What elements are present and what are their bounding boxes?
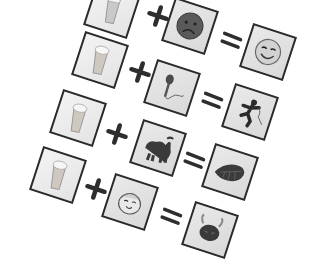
beer-glass-icon <box>38 155 78 195</box>
black-cat-icon <box>138 128 178 168</box>
equals-sign-row1 <box>217 25 247 55</box>
equals-sign-row4 <box>157 201 187 231</box>
beer-glass-icon <box>80 40 120 80</box>
card-beer-row3 <box>49 89 107 147</box>
card-bull-head <box>181 201 239 259</box>
card-happy-wink-face <box>239 23 297 81</box>
card-beer-row2 <box>71 31 129 89</box>
equals-icon <box>157 201 187 231</box>
running-man-icon <box>230 92 270 132</box>
plus-sign-row3 <box>102 119 132 149</box>
plus-icon <box>102 119 132 149</box>
sad-face-icon <box>170 6 210 46</box>
card-beer-row4 <box>29 146 87 204</box>
card-black-cat <box>129 119 187 177</box>
equals-icon <box>198 85 228 115</box>
happy-wink-face-icon <box>248 32 288 72</box>
beer-glass-icon <box>92 0 132 30</box>
bull-head-icon <box>190 210 230 250</box>
card-running-man <box>221 83 279 141</box>
equals-sign-row2 <box>198 85 228 115</box>
leaf-bug-icon <box>210 152 250 192</box>
beer-glass-icon <box>58 98 98 138</box>
smiling-face-cap-icon <box>110 182 150 222</box>
microphone-icon <box>152 68 192 108</box>
equals-icon <box>217 25 247 55</box>
